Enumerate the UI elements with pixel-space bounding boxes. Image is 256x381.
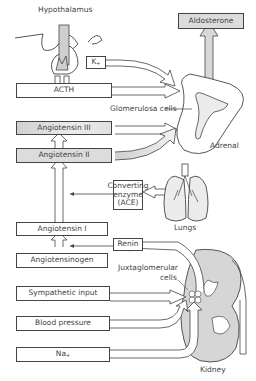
angiotensin-i-box: Angiotensin I [16,222,108,236]
sympathetic-input-label: Sympathetic input [29,289,98,298]
sodium-box: Na+ [16,347,110,362]
aldosterone-label: Aldosterone [189,17,234,26]
angiotensin-ii-label: Angiotensin II [38,151,89,160]
juxtaglomerular-label-line1: Juxtaglomerular [118,264,178,272]
ace-box: Converting enzyme (ACE) [113,180,143,210]
angiotensinogen-label: Angiotensinogen [30,256,93,265]
angiotensin-iii-box: Angiotensin III [16,121,112,135]
potassium-box: K+ [86,56,106,69]
sympathetic-input-box: Sympathetic input [16,286,110,301]
angiotensin-ii-box: Angiotensin II [16,148,112,163]
acth-box: ACTH [16,83,112,98]
lungs-label: Lungs [174,224,196,232]
kidney-label: Kidney [200,366,226,374]
hypothalamus-label: Hypothalamus [38,6,92,14]
sodium-label: Na [56,350,66,359]
juxtaglomerular-label-line2: cells [160,274,177,282]
angiotensin-iii-label: Angiotensin III [37,124,90,133]
angiotensin-i-label: Angiotensin I [38,225,87,234]
angiotensinogen-box: Angiotensinogen [16,253,108,268]
glomerulosa-label: Glomerulosa cells [110,105,177,113]
pituitary-icon [15,25,102,84]
renin-box: Renin [113,238,143,251]
renin-label: Renin [117,240,138,249]
lungs-icon [164,164,208,221]
blood-pressure-box: Blood pressure [16,316,110,331]
acth-label: ACTH [54,86,74,95]
ace-label-line3: (ACE) [118,199,139,208]
aldosterone-box: Aldosterone [178,13,244,29]
adrenal-label: Adrenal [210,142,239,150]
blood-pressure-label: Blood pressure [35,319,91,328]
